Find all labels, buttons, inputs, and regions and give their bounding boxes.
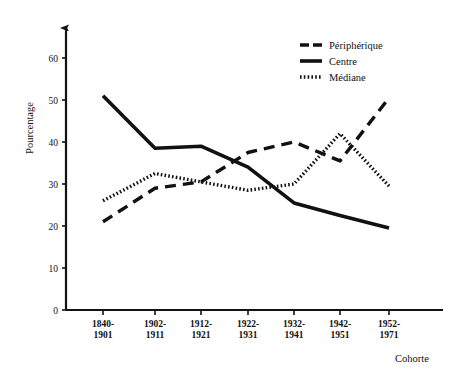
x-axis-tick-labels: 1840-19011902-19111912-19211922-19311932… xyxy=(92,319,400,340)
y-tick-label: 60 xyxy=(49,54,59,64)
x-tick-label: 1922-1931 xyxy=(237,319,259,340)
x-tick-label: 1902-1911 xyxy=(144,319,166,340)
x-tick-label: 1912-1921 xyxy=(190,319,212,340)
legend-label: Centre xyxy=(329,56,357,67)
series-line-1 xyxy=(103,96,389,228)
legend-label: Médiane xyxy=(329,72,366,83)
x-tick-label: 1942-1951 xyxy=(329,319,351,340)
y-tick-label: 50 xyxy=(49,96,59,106)
x-tick-label: 1932-1941 xyxy=(283,319,305,340)
legend-label: Périphérique xyxy=(329,40,383,51)
chart-canvas: 0102030405060 1840-19011902-19111912-192… xyxy=(0,0,453,383)
y-tick-label: 40 xyxy=(49,138,59,148)
y-tick-label: 30 xyxy=(49,180,59,190)
x-tick-label: 1840-1901 xyxy=(92,319,114,340)
series-line-0 xyxy=(103,98,389,222)
x-tick-label: 1952-1971 xyxy=(378,319,400,340)
y-tick-label: 20 xyxy=(49,222,59,232)
y-tick-label: 0 xyxy=(53,306,58,316)
y-axis-tick-labels: 0102030405060 xyxy=(49,54,59,316)
line-chart: 0102030405060 1840-19011902-19111912-192… xyxy=(0,0,453,383)
y-axis-title: Pourcentage xyxy=(24,102,35,154)
data-series-group xyxy=(103,96,389,228)
x-axis-title: Cohorte xyxy=(395,353,429,364)
y-tick-label: 10 xyxy=(49,264,59,274)
chart-legend: PériphériqueCentreMédiane xyxy=(300,40,383,83)
